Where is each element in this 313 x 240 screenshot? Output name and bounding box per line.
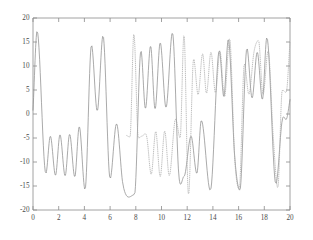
x-tick-label: 2	[57, 214, 61, 222]
y-tick-label: -10	[20, 158, 30, 166]
y-tick-label: 10	[22, 62, 30, 70]
x-tick-label: 8	[134, 214, 138, 222]
series-dotted-curve	[127, 35, 290, 194]
y-tick-label: 15	[22, 38, 30, 46]
series-solid-curve	[33, 32, 290, 197]
x-tick-label: 6	[108, 214, 112, 222]
y-tick-label: 0	[26, 110, 30, 118]
y-tick-label: 5	[26, 86, 30, 94]
y-tick-label: -15	[20, 182, 30, 190]
y-tick-label: 20	[22, 14, 30, 22]
x-tick-label: 18	[261, 214, 269, 222]
x-tick-label: 14	[209, 214, 217, 222]
x-tick-label: 20	[286, 214, 294, 222]
axis-frame	[33, 18, 290, 210]
y-tick-label: -20	[20, 206, 30, 214]
plot-canvas: 02468101214161820 -20-15-10-505101520	[0, 0, 313, 240]
axes-group	[33, 18, 290, 210]
x-tick-label: 16	[235, 214, 243, 222]
y-axis-ticks	[33, 18, 290, 210]
x-tick-label: 10	[158, 214, 166, 222]
x-tick-label: 12	[184, 214, 192, 222]
x-tick-label: 0	[31, 214, 35, 222]
series-group	[33, 32, 290, 197]
y-tick-label: -5	[24, 134, 30, 142]
x-axis-tick-labels: 02468101214161820	[31, 214, 294, 222]
y-axis-tick-labels: -20-15-10-505101520	[20, 14, 30, 214]
x-tick-label: 4	[83, 214, 87, 222]
x-axis-ticks	[33, 18, 290, 210]
figure-container: 02468101214161820 -20-15-10-505101520	[0, 0, 313, 240]
